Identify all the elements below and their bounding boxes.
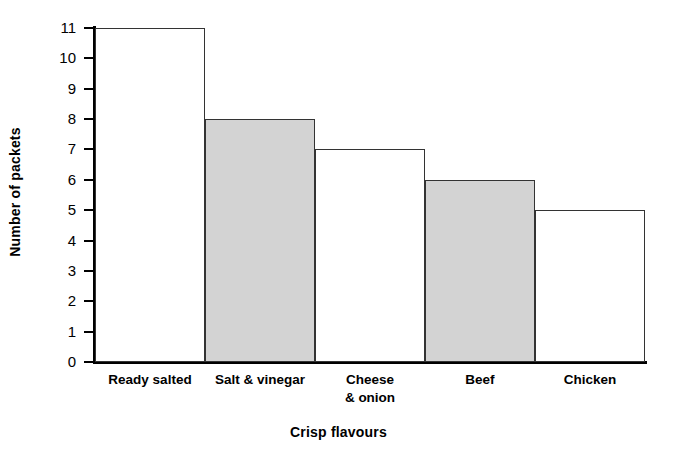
y-axis-tick-label: 9 [46,81,76,97]
y-axis-tick-label: 6 [46,172,76,188]
y-axis-tick-label-text: 7 [50,141,76,156]
y-axis-tick-label-text: 9 [50,81,76,96]
y-axis-tick-label: 10 [46,50,76,66]
y-axis-tick-label: 7 [46,141,76,157]
y-axis-tick-mark [84,179,94,181]
y-axis-tick-label: 3 [46,263,76,279]
y-axis-tick-mark [84,88,94,90]
y-axis-tick-label: 2 [46,293,76,309]
y-axis-tick-label: 11 [46,20,76,36]
y-axis-tick-label-text: 10 [50,50,76,65]
y-axis-tick-mark [84,361,94,363]
y-axis-tick-label-text: 0 [50,354,76,369]
y-axis-tick-mark [84,209,94,211]
y-axis-tick-mark [84,148,94,150]
y-axis-tick-mark [84,331,94,333]
y-axis-tick-label: 0 [46,354,76,370]
y-axis-tick-label-text: 1 [50,324,76,339]
y-axis-tick-label: 1 [46,324,76,340]
y-axis-tick-mark [84,240,94,242]
y-axis-tick-label-text: 6 [50,172,76,187]
bar-chart: Number of packets 01234567891011 Ready s… [0,0,677,467]
bar [425,180,535,362]
bar [315,149,425,362]
y-axis-tick-label: 5 [46,202,76,218]
y-axis-tick-label: 8 [46,111,76,127]
y-axis-tick-label-text: 2 [50,293,76,308]
y-axis-tick-label-text: 8 [50,111,76,126]
y-axis-title: Number of packets [7,82,23,302]
bar [205,119,315,362]
y-axis-tick-label-text: 3 [50,263,76,278]
x-axis-category-label: Chicken [525,371,655,389]
plot-area [95,28,645,362]
bar [535,210,645,362]
y-axis-tick-mark [84,57,94,59]
y-axis-tick-label: 4 [46,233,76,249]
x-axis-title: Crisp flavours [0,424,677,440]
y-axis-tick-mark [84,118,94,120]
y-axis-tick-label-text: 4 [50,233,76,248]
y-axis-tick-mark [84,270,94,272]
y-axis-tick-label-text: 5 [50,202,76,217]
y-axis-tick-mark [84,27,94,29]
y-axis-tick-label-text: 11 [50,20,76,35]
bar [95,28,205,362]
y-axis-tick-mark [84,300,94,302]
